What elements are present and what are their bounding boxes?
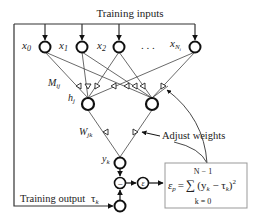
sum-lower-limit: k = 0 bbox=[195, 197, 212, 206]
hidden-node-2 bbox=[146, 98, 158, 110]
input-label-n: xNi bbox=[169, 37, 182, 52]
target-node bbox=[115, 201, 126, 212]
hidden-node-1 bbox=[82, 98, 94, 110]
adjust-weights-label: Adjust weights bbox=[162, 130, 225, 141]
hidden-node-label: hj bbox=[68, 92, 75, 105]
hidden-nodes bbox=[82, 98, 158, 110]
input-node-n bbox=[190, 42, 201, 53]
hidden-output-edges bbox=[88, 110, 152, 157]
training-output-label: Training output bbox=[20, 193, 85, 204]
weight-markers-w bbox=[103, 129, 138, 135]
input-node-2 bbox=[114, 42, 125, 53]
m-weight-label: Mij bbox=[47, 77, 60, 90]
adjust-arrow-m bbox=[167, 90, 207, 163]
output-node bbox=[115, 158, 126, 169]
ellipsis: . . . bbox=[141, 39, 155, 51]
adjust-curve bbox=[174, 142, 207, 163]
input-node-0 bbox=[40, 42, 51, 53]
input-label-2: x2 bbox=[96, 39, 106, 53]
neural-network-diagram: Training inputs x0 bbox=[0, 0, 259, 220]
w-weight-label: Wjk bbox=[79, 126, 93, 139]
input-label-1: x1 bbox=[58, 39, 68, 53]
adjust-arrow-w bbox=[142, 132, 160, 136]
input-label-0: x0 bbox=[21, 39, 31, 53]
minus-symbol: − bbox=[117, 179, 122, 189]
output-node-label: yk bbox=[101, 153, 110, 166]
input-node-1 bbox=[77, 42, 88, 53]
sum-upper-limit: N − 1 bbox=[194, 167, 212, 176]
tau-label: τk bbox=[91, 192, 99, 206]
training-inputs-label: Training inputs bbox=[96, 7, 163, 19]
